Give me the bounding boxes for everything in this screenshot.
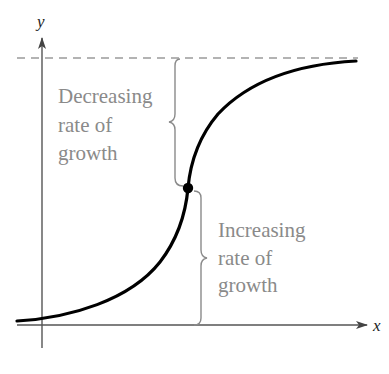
x-axis-label: x: [372, 316, 381, 335]
lower-annotation-line2: rate of: [218, 246, 272, 270]
lower-annotation-line1: Increasing: [218, 218, 306, 242]
upper-annotation-line2: rate of: [58, 113, 112, 137]
upper-annotation-line1: Decreasing: [58, 84, 153, 108]
lower-brace: [194, 191, 207, 325]
upper-annotation-line3: growth: [58, 141, 118, 165]
lower-annotation-line3: growth: [218, 273, 278, 297]
inflection-point-dot: [183, 183, 193, 193]
upper-brace: [169, 59, 183, 186]
y-axis-label: y: [35, 12, 45, 31]
logistic-curve-diagram: x y Decreasing rate of growth Increasing…: [0, 0, 389, 374]
